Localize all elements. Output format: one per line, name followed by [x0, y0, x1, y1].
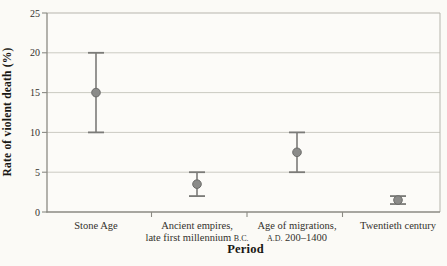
y-tick-label-10: 10	[30, 127, 40, 138]
data-point-1	[193, 180, 202, 189]
data-point-0	[92, 88, 101, 97]
y-tick-label-20: 20	[30, 47, 40, 58]
plot-area: 0510152025Stone AgeAncient empires,late …	[0, 0, 447, 266]
data-point-3	[394, 196, 403, 205]
x-axis-title: Period	[47, 242, 444, 257]
y-axis-title: Rate of violent death (%)	[1, 12, 17, 212]
y-tick-label-0: 0	[35, 207, 40, 218]
y-tick-label-25: 25	[30, 8, 40, 19]
y-tick-label-15: 15	[30, 87, 40, 98]
x-category-label-2: Age of migrations,A.D. 200–1400	[257, 220, 336, 243]
data-point-2	[293, 148, 302, 157]
x-category-label-0: Stone Age	[74, 220, 118, 231]
x-category-label-3: Twentieth century	[360, 220, 437, 231]
x-category-label-1: Ancient empires,late first millennium B.…	[145, 220, 248, 243]
violent-death-error-bar-chart: Rate of violent death (%) 0510152025Ston…	[0, 0, 447, 266]
y-tick-label-5: 5	[35, 167, 40, 178]
plot-background	[47, 13, 440, 212]
